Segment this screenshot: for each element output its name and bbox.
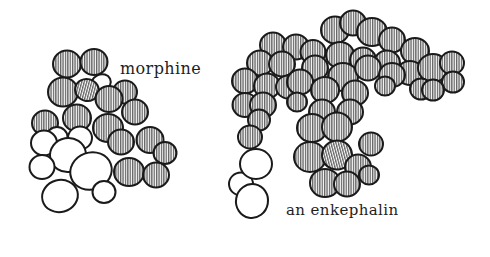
hatched-atom (334, 172, 360, 197)
plain-atom (240, 149, 272, 179)
hatched-atom (287, 93, 307, 112)
hatched-atom (355, 56, 381, 81)
enkephalin-label: an enkephalin (286, 201, 399, 219)
hatched-atom (143, 163, 169, 188)
hatched-atom (114, 158, 144, 186)
molecule-diagram (0, 0, 490, 257)
hatched-atom (322, 113, 352, 142)
hatched-atom (359, 133, 383, 156)
hatched-atom (81, 49, 108, 75)
hatched-atom (122, 100, 148, 125)
hatched-atom (287, 70, 313, 95)
enkephalin-molecule (229, 11, 464, 221)
hatched-atom (108, 130, 134, 155)
figure-canvas: morphine an enkephalin (0, 0, 490, 257)
hatched-atom (238, 126, 262, 149)
hatched-atom (154, 142, 177, 164)
plain-atom (93, 181, 116, 203)
plain-atom (30, 155, 55, 179)
hatched-atom (422, 80, 444, 101)
hatched-atom (48, 78, 78, 107)
hatched-atom (442, 72, 464, 93)
hatched-atom (53, 51, 81, 78)
hatched-atom (375, 77, 395, 96)
morphine-label: morphine (120, 59, 201, 78)
hatched-atom (359, 166, 379, 185)
hatched-atom (96, 86, 123, 112)
